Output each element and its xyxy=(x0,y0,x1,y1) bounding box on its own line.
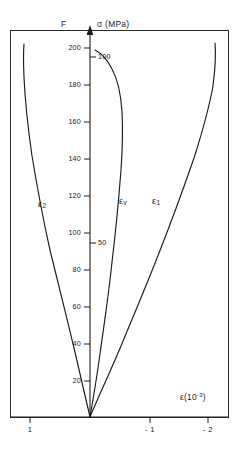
x-axis-title-prefix: ε(10 xyxy=(180,392,197,402)
y-right-axis-title: σ (MPa) xyxy=(97,20,129,28)
y-right-tick-50: 50 xyxy=(98,239,106,246)
y-left-tick-60: 60 xyxy=(55,303,81,310)
y-left-tick-200: 200 xyxy=(55,44,81,51)
y-right-ticks xyxy=(90,57,96,243)
curve-label-eps2-sub: 2 xyxy=(42,202,46,209)
y-left-tick-180: 180 xyxy=(55,81,81,88)
y-left-tick-100: 100 xyxy=(55,229,81,236)
curve-label-epsv: εv xyxy=(119,197,127,207)
x-tick-minus-2: - 2 xyxy=(196,426,220,434)
x-tick-minus-1: - 1 xyxy=(138,426,162,434)
curve-eps1 xyxy=(90,43,215,417)
y-left-ticks xyxy=(84,48,90,381)
y-right-tick-100: 100 xyxy=(98,53,111,60)
y-left-tick-120: 120 xyxy=(55,192,81,199)
x-tick-1: 1 xyxy=(20,426,40,434)
curve-label-eps2: ε2 xyxy=(38,200,46,210)
curve-label-eps1: ε1 xyxy=(152,197,160,207)
x-axis-title-suffix: ) xyxy=(203,392,206,402)
curve-label-epsv-sub: v xyxy=(123,199,127,206)
figure-container: F σ (MPa) 200 180 160 140 120 100 80 60 … xyxy=(0,0,246,449)
y-left-axis-title: F xyxy=(61,20,66,29)
x-axis-title: ε(10-3) xyxy=(180,393,206,401)
y-left-tick-160: 160 xyxy=(55,118,81,125)
y-left-tick-40: 40 xyxy=(55,340,81,347)
plot-canvas xyxy=(0,0,246,449)
curve-label-eps1-sub: 1 xyxy=(156,199,160,206)
y-left-tick-20: 20 xyxy=(55,377,81,384)
curve-epsv xyxy=(90,50,122,417)
y-left-tick-140: 140 xyxy=(55,155,81,162)
y-left-tick-80: 80 xyxy=(55,266,81,273)
